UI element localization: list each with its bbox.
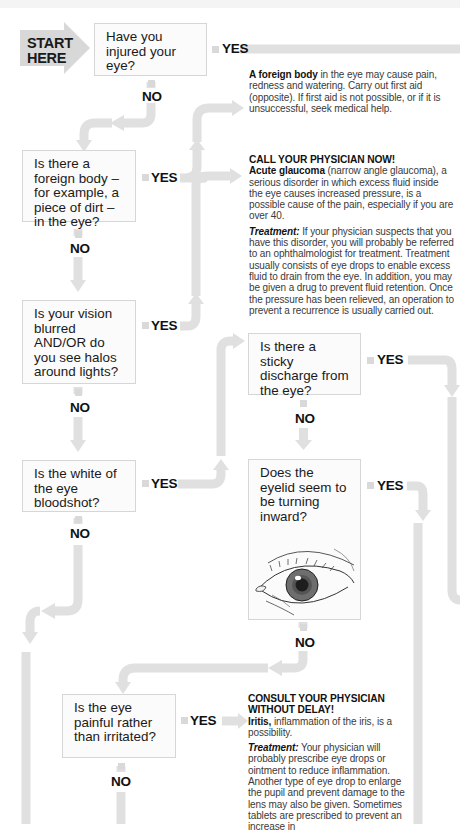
yes-connector-marker xyxy=(367,482,374,489)
no-connector-marker xyxy=(75,389,82,396)
yes-label: YES xyxy=(151,318,177,333)
no-connector-marker xyxy=(75,516,82,523)
no-label: NO xyxy=(70,526,90,541)
eye-illustration-icon xyxy=(250,535,364,619)
no-connector-marker xyxy=(148,80,155,87)
no-connector-marker xyxy=(300,624,307,631)
yes-label: YES xyxy=(222,41,248,56)
no-connector-marker xyxy=(75,231,82,238)
no-connector-marker xyxy=(118,763,125,770)
no-label: NO xyxy=(111,774,131,789)
outcome-acute-glaucoma: CALL YOUR PHYSICIAN NOW! Acute glaucoma … xyxy=(249,154,454,320)
no-label: NO xyxy=(70,400,90,415)
no-label: NO xyxy=(295,411,315,426)
no-connector-marker xyxy=(300,400,307,407)
yes-connector-marker xyxy=(212,46,219,53)
start-here-label: START HERE xyxy=(27,36,73,65)
yes-connector-marker xyxy=(142,174,149,181)
yes-label: YES xyxy=(151,170,177,185)
no-label: NO xyxy=(70,241,90,256)
question-bloodshot[interactable]: Is the white of the eye bloodshot? xyxy=(22,460,136,512)
yes-label: YES xyxy=(377,478,403,493)
no-label: NO xyxy=(142,89,162,104)
yes-connector-marker xyxy=(142,480,149,487)
yes-label: YES xyxy=(190,713,216,728)
yes-connector-marker xyxy=(142,322,149,329)
question-blurred-vision[interactable]: Is your vision blurred AND/OR do you see… xyxy=(22,300,136,384)
arrow-down-icon xyxy=(295,440,312,450)
question-foreign-body[interactable]: Is there a foreign body – for example, a… xyxy=(22,150,136,222)
question-painful-vs-irritated[interactable]: Is the eye painful rather than irritated… xyxy=(62,694,176,758)
yes-connector-marker xyxy=(181,717,188,724)
top-band xyxy=(0,0,460,8)
yes-label: YES xyxy=(377,352,403,367)
outcome-foreign-body: A foreign body in the eye may cause pain… xyxy=(249,69,454,118)
no-label: NO xyxy=(295,635,315,650)
yes-connector-marker xyxy=(367,357,374,364)
yes-label: YES xyxy=(151,476,177,491)
question-injured-eye[interactable]: Have you injured your eye? xyxy=(94,23,207,76)
outcome-iritis: CONSULT YOUR PHYSICIAN WITHOUT DELAY! Ir… xyxy=(248,693,410,834)
question-sticky-discharge[interactable]: Is there a sticky discharge from the eye… xyxy=(248,333,361,395)
